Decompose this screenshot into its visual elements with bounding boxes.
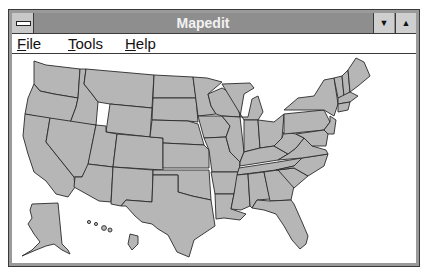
menu-tools-accel: T xyxy=(68,35,76,52)
state-florida[interactable] xyxy=(252,200,308,249)
state-kansas[interactable] xyxy=(163,143,209,168)
title-bar[interactable]: Mapedit ▼ ▲ xyxy=(12,13,416,34)
state-south-dakota[interactable] xyxy=(152,98,198,122)
state-connecticut-ri[interactable] xyxy=(338,102,350,112)
state-maine[interactable] xyxy=(348,58,370,92)
menu-help-label: elp xyxy=(136,35,156,52)
menu-bar: File Tools Help xyxy=(12,34,416,54)
state-north-dakota[interactable] xyxy=(153,75,196,98)
state-indiana[interactable] xyxy=(244,120,260,152)
state-alaska[interactable] xyxy=(22,203,70,256)
menu-file-label: ile xyxy=(26,35,41,52)
menu-tools[interactable]: Tools xyxy=(68,34,103,53)
state-colorado[interactable] xyxy=(113,134,163,170)
state-new-york[interactable] xyxy=(284,78,338,116)
system-menu-button[interactable] xyxy=(12,13,34,33)
menu-tools-label: ools xyxy=(76,35,104,52)
us-map[interactable] xyxy=(12,54,416,263)
state-wyoming[interactable] xyxy=(106,104,152,137)
state-hawaii[interactable] xyxy=(87,220,138,250)
menu-file[interactable]: File xyxy=(17,34,41,53)
map-canvas[interactable] xyxy=(12,54,416,263)
system-menu-icon xyxy=(16,21,31,26)
menu-help-accel: H xyxy=(125,35,136,52)
mapedit-window: Mapedit ▼ ▲ File Tools Help xyxy=(8,9,420,267)
window-title: Mapedit xyxy=(34,13,372,33)
maximize-arrow-icon: ▲ xyxy=(402,18,411,28)
minimize-button[interactable]: ▼ xyxy=(373,13,394,33)
menu-help[interactable]: Help xyxy=(125,34,156,53)
menu-file-accel: F xyxy=(17,35,26,52)
minimize-arrow-icon: ▼ xyxy=(380,18,389,28)
maximize-button[interactable]: ▲ xyxy=(395,13,416,33)
